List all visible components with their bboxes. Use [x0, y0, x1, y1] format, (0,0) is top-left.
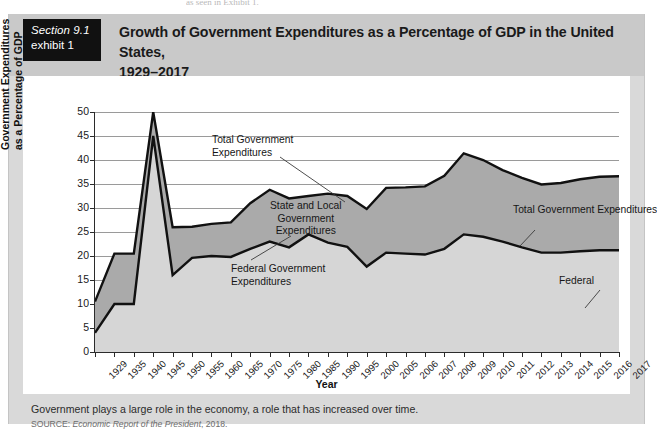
x-tick-2016: [600, 352, 601, 357]
x-tick-1990: [328, 352, 329, 357]
x-tick-label-2017: 2017: [630, 358, 653, 381]
footer-source-label: SOURCE:: [31, 419, 70, 429]
y-axis-tick-labels: 05101520253035404550: [55, 112, 89, 356]
chart-card: Government Expenditures as a Percentage …: [23, 76, 630, 394]
x-tick-2012: [522, 352, 523, 357]
annotation-state-local: State and Local Government Expenditures: [270, 200, 342, 238]
x-tick-2007: [425, 352, 426, 357]
x-tick-2009: [464, 352, 465, 357]
stacked-area-chart: [95, 112, 619, 353]
x-tick-2005: [386, 352, 387, 357]
x-tick-2015: [580, 352, 581, 357]
x-tick-1945: [153, 352, 154, 357]
exhibit-section-label: Section 9.1: [31, 23, 95, 38]
x-tick-1980: [289, 352, 290, 357]
page-bleed-text: as seen in Exhibit 1.: [186, 0, 386, 9]
x-tick-1940: [134, 352, 135, 357]
y-tick-label-10: 10: [59, 297, 89, 309]
annotation-state-local-line3: Expenditures: [270, 225, 342, 238]
y-tick-label-25: 25: [59, 225, 89, 237]
x-tick-2011: [503, 352, 504, 357]
x-tick-2013: [541, 352, 542, 357]
footer-caption: Government plays a large role in the eco…: [31, 402, 631, 416]
y-tick-label-40: 40: [59, 153, 89, 165]
y-axis-title: Government Expenditures as a Percentage …: [0, 0, 25, 150]
x-tick-2008: [444, 352, 445, 357]
x-tick-2000: [367, 352, 368, 357]
annotation-state-local-line1: State and Local: [270, 200, 342, 213]
x-tick-1975: [270, 352, 271, 357]
x-tick-2017: [619, 352, 620, 357]
exhibit-title: Growth of Government Expenditures as a P…: [119, 22, 634, 82]
x-tick-1955: [192, 352, 193, 357]
exhibit-tag: Section 9.1 exhibit 1: [23, 19, 101, 61]
exhibit-container: Section 9.1 exhibit 1 Growth of Governme…: [8, 14, 645, 424]
footer-source: SOURCE: Economic Report of the President…: [31, 418, 631, 430]
y-axis-title-line1: Government Expenditures: [0, 0, 12, 150]
annotation-federal-left-line1: Federal Government: [231, 263, 325, 276]
annotation-total-government-left: Total Government Expenditures: [212, 134, 293, 159]
exhibit-header: Section 9.1 exhibit 1 Growth of Governme…: [9, 14, 644, 76]
plot-area: Total Government Expenditures State and …: [95, 112, 619, 352]
exhibit-footer: Government plays a large role in the eco…: [31, 402, 631, 430]
x-tick-2010: [483, 352, 484, 357]
footer-source-title: Economic Report of the President: [73, 419, 202, 429]
y-tick-label-5: 5: [59, 321, 89, 333]
y-tick-label-50: 50: [59, 105, 89, 117]
y-tick-label-45: 45: [59, 129, 89, 141]
y-tick-label-20: 20: [59, 249, 89, 261]
annotation-total-left-line2: Expenditures: [212, 147, 293, 160]
x-tick-1965: [231, 352, 232, 357]
x-tick-2014: [561, 352, 562, 357]
annotation-state-local-line2: Government: [270, 213, 342, 226]
x-tick-1970: [250, 352, 251, 357]
annotation-federal-left-line2: Expenditures: [231, 276, 325, 289]
footer-source-year: , 2018.: [201, 419, 227, 429]
exhibit-title-line1: Growth of Government Expenditures as a P…: [119, 22, 634, 62]
annotation-federal-left: Federal Government Expenditures: [231, 263, 325, 288]
y-tick-label-0: 0: [59, 345, 89, 357]
x-tick-1960: [211, 352, 212, 357]
x-axis-title: Year: [23, 378, 630, 390]
y-tick-label-30: 30: [59, 201, 89, 213]
annotation-federal-right: Federal: [559, 275, 594, 288]
x-tick-1995: [347, 352, 348, 357]
x-tick-2006: [406, 352, 407, 357]
x-tick-1929: [95, 352, 96, 357]
exhibit-number-label: exhibit 1: [31, 38, 95, 53]
annotation-total-right: Total Government Expenditures: [513, 204, 657, 217]
x-tick-1935: [114, 352, 115, 357]
x-tick-1985: [308, 352, 309, 357]
annotation-total-left-line1: Total Government: [212, 134, 293, 147]
y-axis-title-line2: as a Percentage of GDP: [12, 0, 25, 150]
x-tick-1950: [173, 352, 174, 357]
y-tick-label-15: 15: [59, 273, 89, 285]
y-tick-label-35: 35: [59, 177, 89, 189]
